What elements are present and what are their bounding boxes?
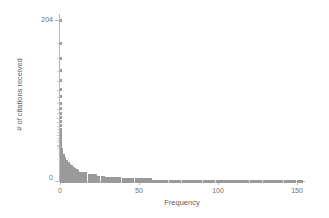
y-tick-mark-minor xyxy=(57,118,59,119)
y-tick-mark-minor xyxy=(57,90,59,91)
data-dot xyxy=(60,131,62,134)
data-dot xyxy=(60,124,62,127)
dot-row xyxy=(60,42,304,45)
y-tick-mark-minor xyxy=(57,58,59,59)
data-dot xyxy=(60,134,62,137)
data-dot xyxy=(60,95,62,98)
data-dot xyxy=(60,69,62,72)
data-dot xyxy=(60,120,62,123)
data-dot xyxy=(60,107,62,110)
dot-row xyxy=(60,69,304,72)
y-tick-mark-minor xyxy=(57,129,59,130)
dot-row xyxy=(60,124,304,127)
x-tick-label-100: 100 xyxy=(212,187,224,194)
y-tick-mark-minor xyxy=(57,109,59,110)
y-tick-mark-minor xyxy=(57,132,59,133)
dot-row xyxy=(60,128,304,131)
y-tick-label-0: 0 xyxy=(49,174,53,181)
data-dot xyxy=(60,19,62,22)
dot-row xyxy=(60,131,304,134)
dot-row xyxy=(60,88,304,91)
x-axis-title: Frequency xyxy=(60,198,304,207)
y-axis-title: # of citations received xyxy=(15,30,24,160)
y-tick-mark-204 xyxy=(55,20,59,21)
y-tick-mark-minor xyxy=(57,81,59,82)
y-tick-mark-minor xyxy=(57,122,59,123)
y-tick-mark-minor xyxy=(57,43,59,44)
y-tick-mark-minor xyxy=(57,135,59,136)
dot-row xyxy=(60,112,304,115)
y-tick-label-204: 204 xyxy=(41,16,53,23)
data-dot xyxy=(60,57,62,60)
dot-row xyxy=(60,95,304,98)
data-dot xyxy=(60,79,62,82)
x-tick-label-0: 0 xyxy=(58,187,62,194)
data-dot xyxy=(60,112,62,115)
dot-row xyxy=(60,134,304,137)
data-dot xyxy=(60,88,62,91)
dot-row xyxy=(60,79,304,82)
y-tick-mark-minor xyxy=(57,142,59,143)
plot-panel xyxy=(60,14,304,180)
y-tick-mark-minor xyxy=(57,71,59,72)
dot-row xyxy=(60,102,304,105)
y-tick-mark-0 xyxy=(55,181,59,182)
dot-row xyxy=(60,107,304,110)
data-dot xyxy=(60,116,62,119)
y-tick-mark-minor xyxy=(57,148,59,149)
y-tick-mark-minor xyxy=(57,145,59,146)
dot-row xyxy=(60,120,304,123)
x-tick-label-50: 50 xyxy=(135,187,143,194)
y-tick-mark-minor xyxy=(57,97,59,98)
citation-frequency-dotplot-figure: 204 0 0 50 100 150 Frequency # of citati… xyxy=(0,0,329,218)
y-tick-mark-minor xyxy=(57,138,59,139)
data-dot xyxy=(60,42,62,45)
data-dot xyxy=(60,102,62,105)
y-tick-mark-minor xyxy=(57,140,59,141)
y-tick-mark-minor xyxy=(57,113,59,114)
y-tick-mark-minor xyxy=(57,126,59,127)
dot-row xyxy=(60,19,304,22)
y-tick-mark-minor xyxy=(57,103,59,104)
data-dot xyxy=(60,128,62,131)
dot-row xyxy=(60,116,304,119)
dot-row xyxy=(60,57,304,60)
x-tick-label-150: 150 xyxy=(291,187,303,194)
y-tick-mark-minor xyxy=(57,146,59,147)
